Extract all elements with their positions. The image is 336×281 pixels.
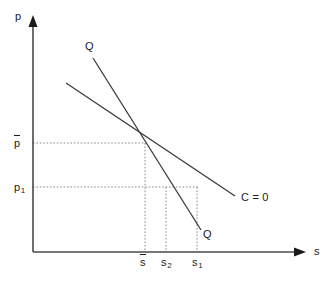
curve-q xyxy=(93,58,201,230)
p-bar-overline-text: p xyxy=(14,138,20,149)
curve-label-c-zero: C = 0 xyxy=(241,192,269,203)
s2-base-text: s xyxy=(161,256,167,268)
s1-subscript-text: 1 xyxy=(198,261,203,270)
y-axis-arrow-icon xyxy=(29,15,38,27)
curve-label-q-bottom: Q xyxy=(203,229,212,240)
curve-label-q-top: Q xyxy=(85,41,94,52)
chart-figure: p s p p1 s s2 s1 Q Q C = 0 xyxy=(0,0,336,281)
x-tick-label-s-bar: s xyxy=(140,257,146,268)
p1-base-text: p xyxy=(14,181,20,193)
x-axis-arrow-icon xyxy=(294,248,306,257)
y-tick-label-p1: p1 xyxy=(14,182,25,193)
plot-canvas xyxy=(0,0,336,281)
p1-subscript-text: 1 xyxy=(21,186,26,195)
s1-base-text: s xyxy=(192,256,198,268)
x-tick-label-s1: s1 xyxy=(192,257,202,268)
y-axis-label: p xyxy=(15,11,21,22)
s-bar-overline-text: s xyxy=(140,257,146,268)
curve-c-zero xyxy=(66,83,235,196)
y-tick-label-p-bar: p xyxy=(14,138,20,149)
x-tick-label-s2: s2 xyxy=(161,257,171,268)
s2-subscript-text: 2 xyxy=(167,261,172,270)
guideline-group xyxy=(33,143,198,252)
curve-group xyxy=(66,58,235,230)
axis-group xyxy=(29,15,307,257)
x-axis-label: s xyxy=(314,246,320,257)
